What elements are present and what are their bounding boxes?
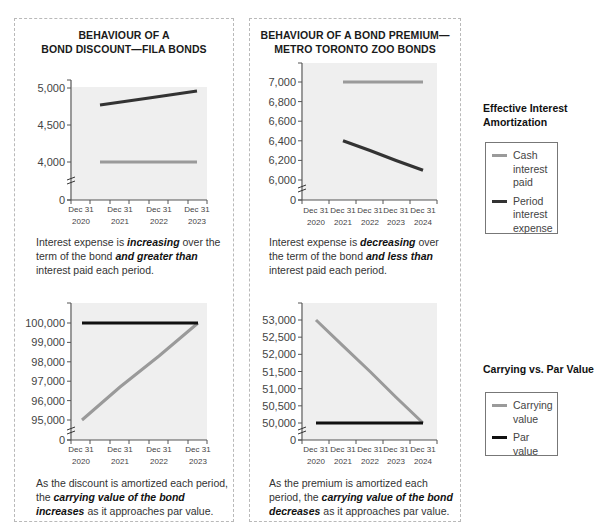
x-tick-label: 2021 (334, 218, 352, 227)
x-tick-label: 2020 (72, 457, 90, 466)
x-tick-label: 2024 (414, 457, 432, 466)
plot-area (303, 63, 437, 200)
x-tick-label: 2022 (361, 218, 379, 227)
y-tick-label: 0 (59, 194, 65, 206)
x-tick-label: 2022 (150, 217, 168, 226)
legend-swatch-black-line-icon (492, 436, 507, 439)
y-tick-label: 0 (290, 434, 296, 446)
legend-item-carrying-value: Carrying value (492, 399, 551, 426)
y-tick-label: 5,000 (37, 82, 65, 94)
x-tick-label: 2020 (307, 218, 325, 227)
y-tick-label: 52,500 (262, 331, 296, 343)
x-tick-label: 2021 (111, 457, 129, 466)
premium-interest-chart: 06,0006,2006,4006,6006,8007,000Dec 31202… (268, 63, 437, 227)
y-tick-label: 6,200 (268, 154, 296, 166)
legend-swatch-gray-line-icon (492, 404, 507, 407)
legend-title-line: Carrying vs. Par Value (483, 362, 602, 376)
y-tick-label: 6,000 (268, 174, 296, 186)
y-tick-label: 53,000 (262, 314, 296, 326)
x-tick-label: Dec 31 (410, 206, 436, 215)
x-tick-label: 2023 (189, 457, 207, 466)
x-tick-label: 2021 (334, 457, 352, 466)
y-tick-label: 96,000 (31, 395, 65, 407)
y-tick-label: 51,000 (262, 383, 296, 395)
x-tick-label: Dec 31 (146, 205, 172, 214)
y-tick-label: 0 (59, 434, 65, 446)
x-tick-label: Dec 31 (383, 206, 409, 215)
y-tick-label: 4,500 (37, 119, 65, 131)
y-tick-label: 51,500 (262, 366, 296, 378)
x-tick-label: Dec 31 (107, 205, 133, 214)
legend-label: Par value (513, 431, 551, 458)
discount-carrying-chart: 095,00096,00097,00098,00099,000100,000De… (25, 303, 211, 466)
x-tick-label: Dec 31 (184, 205, 210, 214)
x-tick-label: Dec 31 (68, 205, 94, 214)
x-tick-label: Dec 31 (146, 445, 172, 454)
y-tick-label: 50,500 (262, 400, 296, 412)
y-tick-label: 6,600 (268, 115, 296, 127)
x-tick-label: Dec 31 (410, 445, 436, 454)
x-tick-label: Dec 31 (330, 206, 356, 215)
legend-title-interest: Effective Interest Amortization (483, 101, 601, 129)
x-tick-label: Dec 31 (357, 206, 383, 215)
legend-swatch-gray-line-icon (492, 154, 507, 157)
plot-area (72, 87, 207, 200)
legend-title-carrying: Carrying vs. Par Value (483, 362, 602, 376)
y-tick-label: 95,000 (31, 414, 65, 426)
x-tick-label: Dec 31 (185, 445, 211, 454)
legend-item-interest-expense: Period interest expense (492, 195, 551, 236)
legend-title-line: Effective Interest (483, 101, 601, 115)
x-tick-label: 2022 (150, 457, 168, 466)
legend-carrying: Carrying value Par value (485, 392, 558, 456)
y-tick-label: 97,000 (31, 375, 65, 387)
legend-label: Period interest expense (513, 195, 553, 236)
y-tick-label: 6,800 (268, 96, 296, 108)
x-tick-label: Dec 31 (107, 445, 133, 454)
legend-swatch-dark-line-icon (492, 200, 507, 203)
x-tick-label: Dec 31 (303, 445, 329, 454)
y-tick-label: 6,400 (268, 135, 296, 147)
x-tick-label: 2022 (361, 457, 379, 466)
legend-item-par-value: Par value (492, 431, 551, 458)
y-tick-label: 99,000 (31, 336, 65, 348)
legend-interest: Cash interest paid Period interest expen… (485, 142, 558, 234)
x-tick-label: Dec 31 (383, 445, 409, 454)
y-tick-label: 0 (290, 194, 296, 206)
legend-label: Carrying value (513, 399, 553, 426)
x-tick-label: 2023 (387, 218, 405, 227)
x-tick-label: 2024 (414, 218, 432, 227)
x-tick-label: Dec 31 (68, 445, 94, 454)
y-tick-label: 52,000 (262, 348, 296, 360)
x-tick-label: Dec 31 (303, 206, 329, 215)
x-tick-label: Dec 31 (330, 445, 356, 454)
x-tick-label: 2023 (387, 457, 405, 466)
x-tick-label: Dec 31 (357, 445, 383, 454)
y-tick-label: 100,000 (25, 317, 65, 329)
x-tick-label: 2020 (307, 457, 325, 466)
x-tick-label: 2021 (111, 217, 129, 226)
x-tick-label: 2020 (72, 217, 90, 226)
y-tick-label: 4,000 (37, 156, 65, 168)
discount-interest-chart: 04,0004,5005,000Dec 312020Dec 312021Dec … (37, 80, 210, 226)
premium-carrying-chart: 050,00050,50051,00051,50052,00052,50053,… (262, 303, 437, 466)
y-tick-label: 50,000 (262, 417, 296, 429)
y-tick-label: 7,000 (268, 76, 296, 88)
legend-label: Cash interest paid (513, 149, 551, 190)
legend-title-line: Amortization (483, 115, 601, 129)
legend-item-cash-interest: Cash interest paid (492, 149, 551, 190)
x-tick-label: 2023 (188, 217, 206, 226)
y-tick-label: 98,000 (31, 356, 65, 368)
